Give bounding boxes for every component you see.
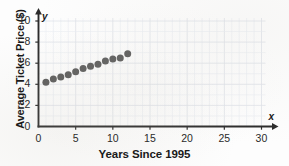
x-axis-variable-label: x [269,111,275,122]
y-tick-label-10: 10 [19,14,31,26]
y-axis-arrowhead [35,8,42,15]
y-tick-label-0: 0 [25,120,31,132]
x-tick-label-15: 15 [144,132,156,144]
y-tick-label-4: 4 [25,77,31,89]
data-point-3[interactable] [57,73,64,80]
x-tick-label-0: 0 [36,132,42,144]
x-axis-arrowhead [272,123,279,130]
data-point-12[interactable] [124,50,131,57]
data-point-8[interactable] [94,61,101,68]
x-axis-title: Years Since 1995 [0,148,289,160]
x-tick-label-10: 10 [107,132,119,144]
y-tick-label-6: 6 [25,56,31,68]
data-point-6[interactable] [80,65,87,72]
data-point-4[interactable] [65,71,72,78]
data-point-9[interactable] [102,58,109,65]
x-tick-label-25: 25 [218,132,230,144]
scatter-plot-figure: Average Ticket Price ($) Years Since 199… [0,0,289,166]
data-point-5[interactable] [72,68,79,75]
data-point-7[interactable] [87,63,94,70]
data-point-1[interactable] [42,79,49,86]
data-point-10[interactable] [109,55,116,62]
x-tick-label-5: 5 [73,132,79,144]
y-axis-variable-label: y [42,11,48,22]
x-tick-label-20: 20 [181,132,193,144]
data-point-11[interactable] [117,54,124,61]
y-tick-label-8: 8 [25,35,31,47]
x-tick-label-30: 30 [256,132,268,144]
y-tick-label-2: 2 [25,98,31,110]
data-point-2[interactable] [50,76,57,83]
